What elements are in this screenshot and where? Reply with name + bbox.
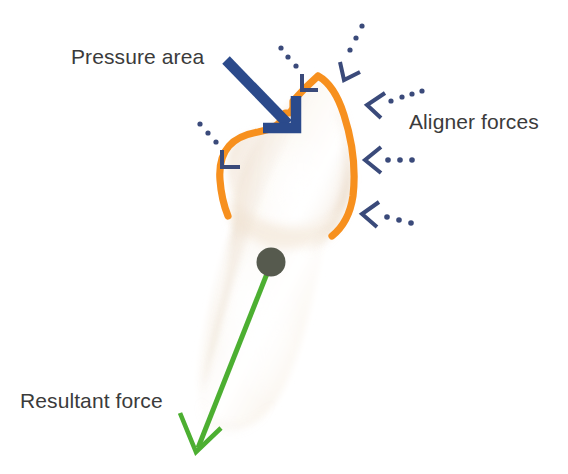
aligner-arrow-top-right bbox=[340, 23, 365, 80]
label-resultant-force: Resultant force bbox=[20, 389, 163, 412]
pressure-area-arrow bbox=[226, 60, 296, 128]
center-of-resistance-dot bbox=[257, 248, 286, 277]
label-aligner-forces: Aligner forces bbox=[409, 110, 539, 133]
label-pressure-area: Pressure area bbox=[71, 45, 204, 68]
aligner-arrow-right-mid bbox=[365, 147, 415, 173]
figure-canvas: Pressure area Aligner forces Resultant f… bbox=[0, 0, 568, 474]
aligner-arrow-right-lower bbox=[362, 202, 414, 227]
